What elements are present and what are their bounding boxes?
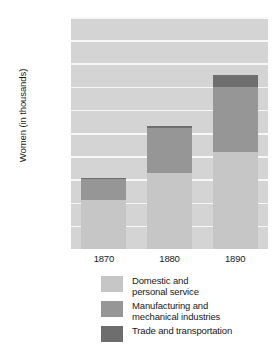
bar-segment	[147, 173, 192, 249]
bar-segment	[147, 126, 192, 128]
bar-segment	[213, 87, 258, 152]
x-axis-tick-label: 1880	[135, 253, 205, 264]
chart-legend: Domestic and personal serviceManufacturi…	[101, 276, 279, 346]
bar-1870	[81, 17, 126, 249]
bar-1880	[147, 17, 192, 249]
x-axis-tick-label: 1890	[200, 253, 270, 264]
legend-swatch	[101, 301, 123, 317]
legend-label: Manufacturing and mechanical industries	[132, 301, 220, 322]
x-axis-tick-label: 1870	[69, 253, 139, 264]
bar-1890	[213, 17, 258, 249]
legend-label: Trade and transportation	[132, 326, 232, 337]
chart-figure: Women (in thousands) 5001,0001,5002,0002…	[0, 0, 279, 353]
bar-segment	[81, 200, 126, 249]
bar-segment	[213, 152, 258, 249]
bar-segment	[81, 178, 126, 179]
bar-segment	[81, 179, 126, 200]
legend-swatch	[101, 326, 123, 342]
legend-label: Domestic and personal service	[132, 276, 199, 297]
legend-item: Trade and transportation	[101, 326, 279, 342]
legend-swatch	[101, 276, 123, 292]
legend-item: Domestic and personal service	[101, 276, 279, 297]
bar-segment	[213, 75, 258, 87]
legend-item: Manufacturing and mechanical industries	[101, 301, 279, 322]
bar-segment	[147, 128, 192, 173]
y-axis-title: Women (in thousands)	[17, 31, 28, 201]
